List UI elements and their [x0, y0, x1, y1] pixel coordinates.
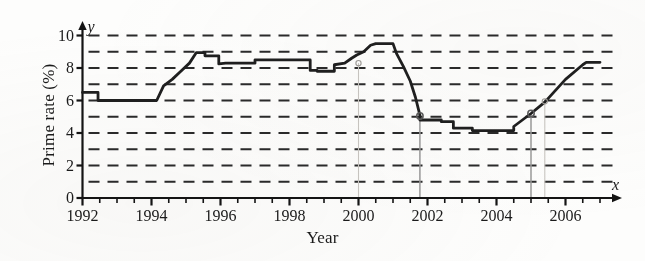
y-tick-label-2: 2 [30, 157, 74, 175]
y-tick-label-4: 4 [30, 124, 74, 142]
x-axis-variable-label: x [612, 176, 619, 194]
prime-rate-chart-figure: Prime rate (%) Year 0246810 199219941996… [0, 0, 645, 261]
x-tick-label-1992: 1992 [67, 207, 99, 225]
x-tick-label-2002: 2002 [412, 207, 444, 225]
y-tick-label-8: 8 [30, 59, 74, 77]
y-axis-variable-label: y [88, 18, 95, 36]
x-tick-label-2000: 2000 [343, 207, 375, 225]
x-axis-title: Year [0, 228, 645, 248]
axes [78, 21, 622, 202]
y-tick-label-10: 10 [30, 27, 74, 45]
y-tick-label-6: 6 [30, 92, 74, 110]
x-tick-label-1996: 1996 [205, 207, 237, 225]
y-tick-label-0: 0 [30, 189, 74, 207]
intersection-markers [356, 61, 548, 120]
x-tick-label-2006: 2006 [550, 207, 582, 225]
x-tick-label-1994: 1994 [136, 207, 168, 225]
x-tick-label-2004: 2004 [481, 207, 513, 225]
x-tick-label-1998: 1998 [274, 207, 306, 225]
